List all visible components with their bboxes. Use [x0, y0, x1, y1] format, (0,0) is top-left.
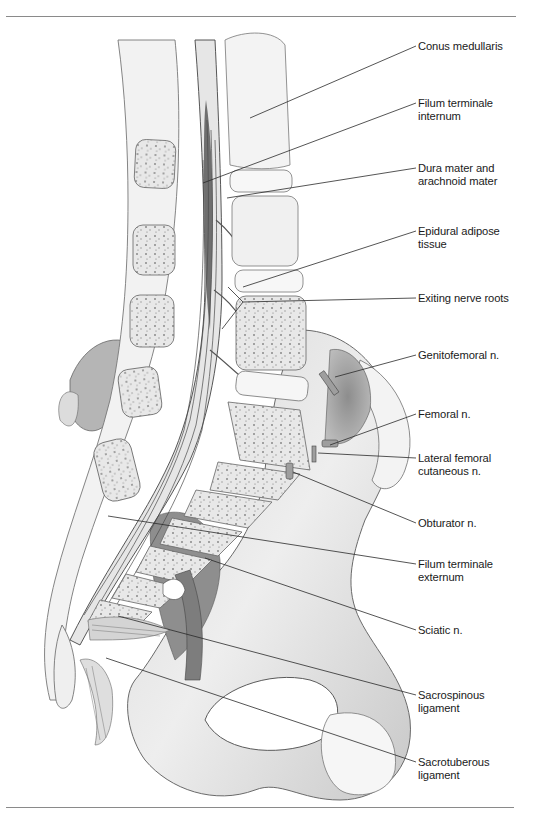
label-lateral-femoral-cutaneous-n: Lateral femoral cutaneous n. — [418, 452, 491, 478]
label-line: Dura mater and — [418, 162, 497, 175]
label-line: internum — [418, 110, 493, 123]
label-femoral-n: Femoral n. — [418, 408, 470, 421]
label-sciatic-n: Sciatic n. — [418, 624, 462, 637]
label-epidural-adipose: Epidural adipose tissue — [418, 225, 500, 251]
label-filum-terminale-internum: Filum terminale internum — [418, 97, 493, 123]
label-line: arachnoid mater — [418, 175, 497, 188]
label-line: ligament — [418, 702, 485, 715]
label-exiting-nerve-roots: Exiting nerve roots — [418, 292, 509, 305]
label-genitofemoral-n: Genitofemoral n. — [418, 349, 499, 362]
label-line: Exiting nerve roots — [418, 292, 509, 305]
label-line: Epidural adipose — [418, 225, 500, 238]
label-line: cutaneous n. — [418, 465, 491, 478]
label-line: Sciatic n. — [418, 624, 462, 637]
label-line: externum — [418, 571, 493, 584]
label-sacrotuberous-ligament: Sacrotuberous ligament — [418, 756, 489, 782]
label-line: Sacrotuberous — [418, 756, 489, 769]
label-line: Conus medullaris — [418, 40, 503, 53]
label-line: Lateral femoral — [418, 452, 491, 465]
label-sacrospinous-ligament: Sacrospinous ligament — [418, 689, 485, 715]
label-conus-medullaris: Conus medullaris — [418, 40, 503, 53]
label-line: Femoral n. — [418, 408, 470, 421]
label-dura-arachnoid: Dura mater and arachnoid mater — [418, 162, 497, 188]
label-line: Sacrospinous — [418, 689, 485, 702]
label-line: Filum terminale — [418, 97, 493, 110]
label-line: Genitofemoral n. — [418, 349, 499, 362]
label-line: tissue — [418, 238, 500, 251]
bottom-rule — [6, 807, 514, 808]
label-line: Obturator n. — [418, 517, 477, 530]
label-line: Filum terminale — [418, 558, 493, 571]
label-obturator-n: Obturator n. — [418, 517, 477, 530]
label-line: ligament — [418, 769, 489, 782]
label-filum-terminale-externum: Filum terminale externum — [418, 558, 493, 584]
